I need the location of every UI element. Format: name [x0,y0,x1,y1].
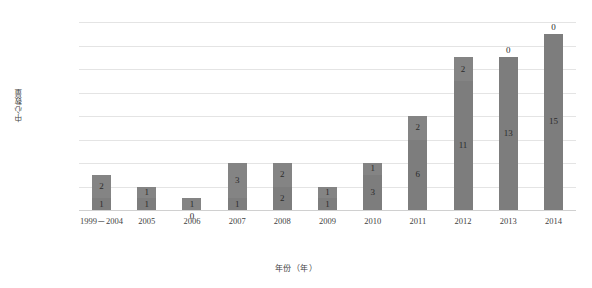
bar-segment-top: 2 [408,116,427,140]
bar-segment-bottom: 15 [544,34,563,210]
bar-value-label-top: 0 [544,23,563,32]
x-axis-title: 年份（年） [0,262,592,273]
bar-chart: 中心数量 0246810121416 211110312211132621113… [0,0,592,288]
bar-segment-bottom: 1 [92,198,111,210]
bar-stack: 13 [363,163,382,210]
bar-group[interactable]: 11 [137,187,156,211]
bar-stack: 10 [182,198,201,210]
y-axis-title: 中心数量 [14,88,32,122]
bar-group[interactable]: 11 [318,187,337,211]
bar-stack: 26 [408,116,427,210]
bar-segment-top: 1 [318,187,337,199]
bar-group[interactable]: 21 [92,175,111,210]
bar-stack: 211 [454,57,473,210]
bar-group[interactable]: 13 [363,163,382,210]
bar-group[interactable]: 22 [273,163,292,210]
bar-segment-top: 2 [273,163,292,187]
x-axis-tick-label: 2014 [513,216,592,226]
bar-segment-bottom: 2 [273,187,292,211]
bar-stack: 11 [137,187,156,211]
gridline [79,210,576,211]
bar-group[interactable]: 10 [182,198,201,210]
bar-stack: 21 [92,175,111,210]
bar-group[interactable]: 31 [228,163,247,210]
bar-group[interactable]: 211 [454,57,473,210]
bar-segment-bottom: 6 [408,140,427,211]
bar-segment-top: 3 [228,163,247,198]
bar-segment-bottom: 11 [454,81,473,210]
bar-segment-bottom: 1 [228,198,247,210]
bar-group[interactable]: 130 [499,57,518,210]
bar-segment-bottom: 13 [499,57,518,210]
bar-segment-top: 1 [363,163,382,175]
bar-stack: 130 [499,57,518,210]
plot-area: 0246810121416 2111103122111326211130150 [79,22,576,210]
bar-group[interactable]: 150 [544,34,563,210]
bar-segment-bottom: 1 [318,198,337,210]
bar-segment-bottom: 1 [137,198,156,210]
bar-segment-top: 2 [92,175,111,199]
bar-segment-bottom: 3 [363,175,382,210]
bar-stack: 11 [318,187,337,211]
bar-stack: 150 [544,34,563,210]
bar-value-label-top: 0 [499,46,518,55]
bar-stack: 31 [228,163,247,210]
bar-stack: 22 [273,163,292,210]
bar-segment-top: 1 [182,198,201,210]
bar-group[interactable]: 26 [408,116,427,210]
bar-series: 2111103122111326211130150 [79,22,576,210]
bar-segment-top: 2 [454,57,473,81]
bar-segment-top: 1 [137,187,156,199]
